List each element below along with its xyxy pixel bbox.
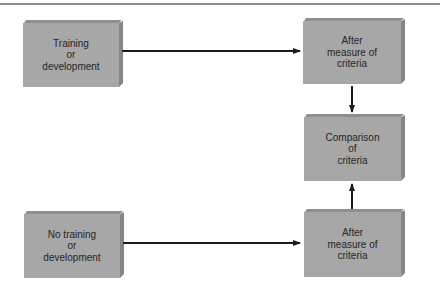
connector-layer — [0, 0, 440, 292]
